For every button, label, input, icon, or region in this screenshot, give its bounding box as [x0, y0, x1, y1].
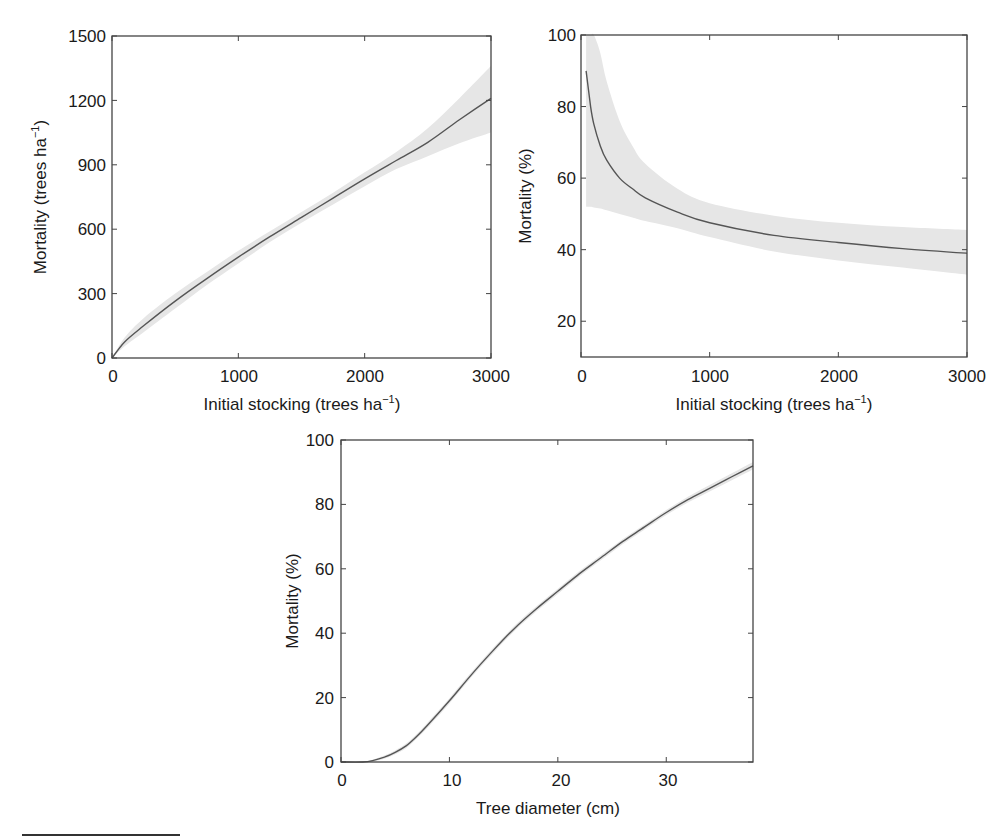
x-tick-label: 1000 — [691, 367, 729, 386]
y-tick-label: 80 — [315, 495, 334, 514]
y-tick-label: 100 — [306, 431, 334, 450]
y-axis-label: Mortality (trees ha−1) — [29, 120, 50, 274]
x-tick-labels: 0 1000 2000 3000 — [108, 367, 510, 386]
y-tick-label: 0 — [97, 349, 106, 368]
y-tick-label: 0 — [325, 753, 334, 772]
y-tick-label: 40 — [557, 241, 576, 260]
confidence-band — [341, 462, 753, 762]
y-tick-labels: 0 20 40 60 80 100 — [306, 431, 334, 772]
x-tick-label: 0 — [337, 771, 346, 790]
panel-top-right: 20 40 60 80 100 0 1000 2000 3000 Initial… — [516, 26, 986, 414]
confidence-band — [112, 66, 491, 358]
x-axis-label: Initial stocking (trees ha−1) — [676, 393, 873, 414]
y-tick-label: 600 — [78, 220, 106, 239]
y-tick-label: 60 — [315, 560, 334, 579]
x-tick-label: 1000 — [220, 367, 258, 386]
fitted-curve — [341, 466, 753, 762]
x-tick-label: 2000 — [346, 367, 384, 386]
x-tick-label: 20 — [552, 771, 571, 790]
x-tick-labels: 0 10 20 30 — [337, 771, 677, 790]
fitted-curve — [112, 98, 491, 358]
figure: 0 300 600 900 1200 1500 0 1000 2000 3000… — [0, 0, 1006, 837]
x-tick-label: 30 — [659, 771, 678, 790]
panel-top-left: 0 300 600 900 1200 1500 0 1000 2000 3000… — [29, 27, 510, 414]
y-tick-label: 1500 — [68, 27, 106, 46]
y-tick-label: 100 — [548, 26, 576, 45]
y-tick-labels: 0 300 600 900 1200 1500 — [68, 27, 106, 368]
y-tick-label: 40 — [315, 624, 334, 643]
x-tick-label: 10 — [443, 771, 462, 790]
x-tick-label: 3000 — [472, 367, 510, 386]
y-axis-label: Mortality (%) — [283, 553, 302, 648]
x-tick-label: 0 — [108, 367, 117, 386]
y-tick-label: 80 — [557, 98, 576, 117]
y-tick-label: 60 — [557, 169, 576, 188]
confidence-band — [586, 34, 967, 275]
x-axis-label: Initial stocking (trees ha−1) — [204, 393, 401, 414]
x-tick-label: 3000 — [948, 367, 986, 386]
x-tick-label: 2000 — [820, 367, 858, 386]
y-tick-label: 1200 — [68, 92, 106, 111]
y-tick-labels: 20 40 60 80 100 — [548, 26, 576, 331]
y-tick-label: 900 — [78, 156, 106, 175]
x-tick-labels: 0 1000 2000 3000 — [577, 367, 986, 386]
panel-bottom: 0 20 40 60 80 100 0 10 20 30 Tree diamet… — [283, 431, 753, 818]
x-axis-label: Tree diameter (cm) — [476, 799, 620, 818]
x-tick-label: 0 — [577, 367, 586, 386]
y-tick-label: 20 — [557, 312, 576, 331]
y-axis-label: Mortality (%) — [516, 148, 535, 243]
y-tick-label: 20 — [315, 689, 334, 708]
footnote-rule — [22, 834, 180, 836]
y-tick-label: 300 — [78, 285, 106, 304]
